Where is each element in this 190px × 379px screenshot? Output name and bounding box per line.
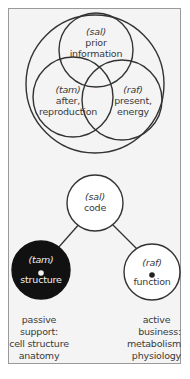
caption-function-line: active xyxy=(120,314,181,326)
caption-structure-line: anatomy xyxy=(9,350,69,362)
edge-code-function xyxy=(110,222,138,250)
venn-label-raf: (raf) present, energy xyxy=(108,84,158,117)
node-function-tag: (raf) xyxy=(122,257,182,268)
venn-line2-sal: information xyxy=(61,48,131,59)
venn-line1-sal: prior xyxy=(61,37,131,48)
venn-tag-sal: (sal) xyxy=(61,26,131,37)
venn-label-sal: (sal) prior information xyxy=(61,26,131,59)
caption-function: active business: metabolism physiology xyxy=(120,314,181,362)
caption-function-line: metabolism xyxy=(120,338,181,350)
venn-tag-raf: (raf) xyxy=(108,84,158,95)
node-structure-label: (tam) structure xyxy=(11,254,71,285)
node-function-label: (raf) function xyxy=(122,257,182,287)
caption-structure-line: cell structure xyxy=(9,338,69,350)
edge-code-structure xyxy=(58,222,81,248)
venn-line1-tam: after, xyxy=(33,95,103,106)
venn-label-tam: (tam) after, reproduction xyxy=(33,84,103,117)
caption-structure: passive support: cell structure anatomy xyxy=(9,314,69,362)
node-code-text: code xyxy=(70,202,120,213)
venn-line1-raf: present, xyxy=(108,95,158,106)
caption-structure-line: support: xyxy=(9,326,69,338)
venn-line2-tam: reproduction xyxy=(33,106,103,117)
node-function-text: function xyxy=(122,276,182,287)
venn-line2-raf: energy xyxy=(108,106,158,117)
node-structure-tag: (tam) xyxy=(11,254,71,265)
node-code-label: (sal) code xyxy=(70,191,120,213)
caption-function-line: business: xyxy=(120,326,181,338)
caption-structure-line: passive xyxy=(9,314,69,326)
caption-function-line: physiology xyxy=(120,350,181,362)
venn-tag-tam: (tam) xyxy=(33,84,103,95)
node-structure-text: structure xyxy=(11,274,71,285)
node-code-tag: (sal) xyxy=(70,191,120,202)
